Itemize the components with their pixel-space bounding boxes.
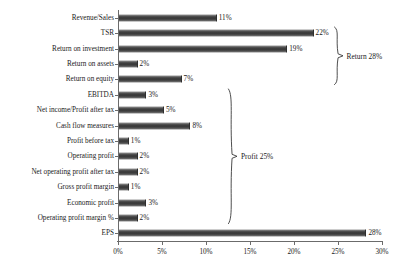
bar-value-label: 3% <box>148 91 158 99</box>
y-axis-tick <box>115 95 118 96</box>
bar <box>119 230 366 237</box>
category-label: Operating profit <box>0 152 114 160</box>
bar <box>119 199 146 206</box>
bar-value-label: 2% <box>140 60 150 68</box>
bar <box>119 122 190 129</box>
bar <box>119 137 129 144</box>
x-axis-tick <box>294 241 295 245</box>
category-label: Return on investment <box>0 45 114 53</box>
x-axis-tick-label: 15% <box>230 248 270 257</box>
annotation-label: Profit 25% <box>241 152 273 161</box>
y-axis-tick <box>115 49 118 50</box>
category-label: Profit before tax <box>0 137 114 145</box>
bar-value-label: 3% <box>148 199 158 207</box>
bar-value-label: 1% <box>131 183 141 191</box>
bar <box>119 14 217 21</box>
y-axis-tick <box>115 110 118 111</box>
y-axis-tick <box>115 203 118 204</box>
bar-value-label: 1% <box>131 137 141 145</box>
category-label: EPS <box>0 229 114 237</box>
category-label: Net income/Profit after tax <box>0 106 114 114</box>
y-axis-tick <box>115 172 118 173</box>
bar-value-label: 11% <box>219 14 232 22</box>
bar-value-label: 2% <box>140 168 150 176</box>
bar-value-label: 28% <box>368 229 381 237</box>
category-label: Net operating profit after tax <box>0 168 114 176</box>
category-label: Economic profit <box>0 199 114 207</box>
x-axis-tick <box>250 241 251 245</box>
category-label: Return on assets <box>0 60 114 68</box>
x-axis-tick-label: 5% <box>142 248 182 257</box>
bar-value-label: 5% <box>166 106 176 114</box>
bar-value-label: 2% <box>140 214 150 222</box>
y-axis-tick <box>115 18 118 19</box>
brace-icon <box>334 27 345 85</box>
y-axis-tick <box>115 79 118 80</box>
bar <box>119 168 138 175</box>
brace-icon <box>228 89 239 224</box>
y-axis-tick <box>115 141 118 142</box>
bar-chart: Revenue/SalesTSRReturn on investmentRetu… <box>0 0 406 263</box>
x-axis-tick-label: 20% <box>274 248 314 257</box>
bar-value-label: 2% <box>140 152 150 160</box>
bar <box>119 214 138 221</box>
bar <box>119 91 146 98</box>
bar <box>119 60 138 67</box>
bar-value-label: 22% <box>316 29 329 37</box>
category-label: TSR <box>0 29 114 37</box>
bar <box>119 76 182 83</box>
bar <box>119 153 138 160</box>
bar <box>119 45 287 52</box>
category-axis-labels: Revenue/SalesTSRReturn on investmentRetu… <box>0 0 114 263</box>
category-label: Gross profit margin <box>0 183 114 191</box>
y-axis-tick <box>115 126 118 127</box>
category-label: Cash flow measures <box>0 122 114 130</box>
bar <box>119 184 129 191</box>
x-axis-tick <box>118 241 119 245</box>
y-axis-tick <box>115 187 118 188</box>
category-label: Return on equity <box>0 75 114 83</box>
y-axis-tick <box>115 233 118 234</box>
plot-area: 11%22%19%2%7%3%5%8%1%2%2%1%3%2%28% 0%5%1… <box>118 10 382 241</box>
x-axis-tick <box>206 241 207 245</box>
category-label: EBITDA <box>0 91 114 99</box>
bar <box>119 107 164 114</box>
y-axis-tick <box>115 64 118 65</box>
x-axis-tick <box>338 241 339 245</box>
x-axis-tick-label: 10% <box>186 248 226 257</box>
category-label: Operating profit margin % <box>0 214 114 222</box>
bar-value-label: 7% <box>184 75 194 83</box>
x-axis-tick <box>382 241 383 245</box>
x-axis-tick-label: 0% <box>98 248 138 257</box>
annotation-label: Return 28% <box>347 52 383 61</box>
y-axis-tick <box>115 156 118 157</box>
bar <box>119 30 314 37</box>
y-axis-tick <box>115 33 118 34</box>
bar-value-label: 8% <box>192 122 202 130</box>
category-label: Revenue/Sales <box>0 14 114 22</box>
x-axis-tick-label: 25% <box>318 248 358 257</box>
x-axis-tick-label: 30% <box>362 248 402 257</box>
y-axis-tick <box>115 218 118 219</box>
x-axis-tick <box>162 241 163 245</box>
bar-value-label: 19% <box>289 45 302 53</box>
